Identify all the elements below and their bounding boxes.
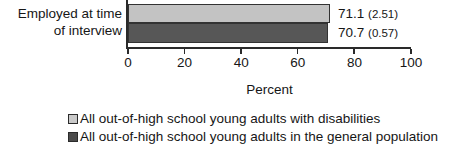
value-label-disabilities: 71.1 (2.51) — [338, 6, 398, 22]
x-axis-line — [126, 47, 411, 49]
x-tick-0 — [127, 49, 129, 54]
value-se-disabilities: (2.51) — [368, 8, 398, 20]
category-axis-label: Employed at timeof interview — [0, 5, 122, 39]
bar-disabilities — [128, 4, 330, 23]
x-tick-20 — [184, 49, 186, 54]
legend-item-general-population: All out-of-high school young adults in t… — [68, 128, 468, 146]
x-tick-label-100: 100 — [400, 55, 423, 70]
x-tick-80 — [353, 49, 355, 54]
x-tick-60 — [297, 49, 299, 54]
x-tick-label-20: 20 — [177, 55, 192, 70]
legend: All out-of-high school young adults with… — [68, 110, 468, 146]
legend-label-disabilities: All out-of-high school young adults with… — [80, 111, 380, 127]
x-tick-label-0: 0 — [124, 55, 132, 70]
value-label-general-population: 70.7 (0.57) — [338, 25, 398, 41]
value-main-disabilities: 71.1 — [338, 6, 364, 21]
x-tick-label-40: 40 — [234, 55, 249, 70]
value-se-general-population: (0.57) — [368, 27, 398, 39]
legend-label-general-population: All out-of-high school young adults in t… — [80, 129, 438, 145]
x-tick-label-80: 80 — [347, 55, 362, 70]
x-tick-label-60: 60 — [290, 55, 305, 70]
bar-general-population — [128, 23, 328, 43]
category-label-line-1: Employed at time — [18, 6, 122, 21]
bar-chart: Employed at timeof interview 0 20 40 60 … — [0, 0, 470, 149]
legend-item-disabilities: All out-of-high school young adults with… — [68, 110, 468, 128]
category-label-line-2: of interview — [54, 23, 122, 38]
x-tick-40 — [240, 49, 242, 54]
x-tick-100 — [410, 49, 412, 54]
x-axis-title: Percent — [128, 82, 411, 98]
legend-swatch-icon-general-population — [68, 132, 78, 142]
value-main-general-population: 70.7 — [338, 25, 364, 40]
legend-swatch-icon-disabilities — [68, 114, 78, 124]
